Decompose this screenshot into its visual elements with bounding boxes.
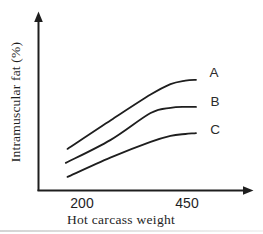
x-axis-label: Hot carcass weight <box>67 213 175 227</box>
series-label-c: C <box>210 123 220 137</box>
chart-canvas <box>0 0 263 234</box>
y-axis-label: Intramuscular fat (%) <box>9 42 23 162</box>
series-label-a: A <box>209 66 218 80</box>
scan-artifact-line <box>0 230 263 232</box>
intramuscular-fat-vs-carcass-weight-figure: Intramuscular fat (%) 200 450 Hot carcas… <box>0 0 263 234</box>
x-tick-450: 450 <box>175 196 198 210</box>
x-tick-200: 200 <box>70 196 93 210</box>
series-label-b: B <box>210 95 219 109</box>
